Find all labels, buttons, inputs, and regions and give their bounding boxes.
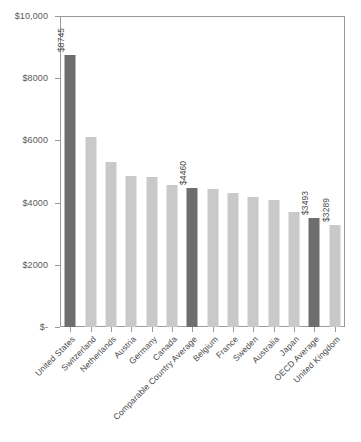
bar-slot — [223, 16, 243, 327]
bar-slot — [80, 16, 100, 327]
x-axis-tick-mark — [111, 327, 112, 332]
bar — [146, 177, 157, 327]
bar — [228, 193, 239, 327]
x-axis-tick-mark — [213, 327, 214, 332]
y-axis-tick-label: $4000 — [22, 198, 48, 208]
y-axis-tick-label: $- — [40, 322, 48, 332]
y-axis-tick-label: $6000 — [22, 135, 48, 145]
bar-value-label: $3289 — [321, 198, 331, 222]
bar — [187, 188, 198, 327]
y-axis-tick-label: $8000 — [22, 73, 48, 83]
bar — [105, 162, 116, 327]
x-axis-tick-mark — [172, 327, 173, 332]
bar-slot — [121, 16, 141, 327]
bar-value-label: $8745 — [56, 28, 66, 52]
bar-slot — [243, 16, 263, 327]
bar-slot: $4460 — [182, 16, 202, 327]
bar-slot: $3289 — [325, 16, 345, 327]
x-axis-tick-mark — [91, 327, 92, 332]
x-axis-tick-mark — [335, 327, 336, 332]
bar — [65, 55, 76, 327]
y-axis-tick-label: $2000 — [22, 260, 48, 270]
bar-slot — [284, 16, 304, 327]
x-axis-tick-mark — [253, 327, 254, 332]
bar — [207, 189, 218, 327]
bar — [85, 137, 96, 327]
bar — [268, 200, 279, 327]
bar-slot — [141, 16, 161, 327]
x-axis-labels: United StatesSwitzerlandNetherlandsAustr… — [60, 334, 345, 442]
bar-slot — [203, 16, 223, 327]
bar — [309, 218, 320, 327]
x-axis-tick-mark — [314, 327, 315, 332]
bar-slot: $8745 — [60, 16, 80, 327]
x-axis-tick-mark — [152, 327, 153, 332]
x-axis-tick-mark — [233, 327, 234, 332]
y-axis-tick-label: $10,000 — [15, 11, 48, 21]
bar-chart: $10,000$8000$6000$4000$2000$- $8745$4460… — [0, 0, 361, 442]
bar-slot: $3493 — [304, 16, 324, 327]
bar-value-label: $4460 — [178, 161, 188, 185]
bar-slot — [264, 16, 284, 327]
bars-layer: $8745$4460$3493$3289 — [60, 16, 345, 327]
x-axis-tick-mark — [131, 327, 132, 332]
bar — [289, 212, 300, 327]
bar — [329, 225, 340, 327]
bar — [166, 185, 177, 327]
bar-value-label: $3493 — [300, 191, 310, 215]
x-axis-tick-mark — [294, 327, 295, 332]
bar-slot — [101, 16, 121, 327]
x-axis-ticks — [60, 327, 345, 333]
x-axis-tick-mark — [70, 327, 71, 332]
x-axis-tick-mark — [192, 327, 193, 332]
bar — [248, 197, 259, 327]
bar — [126, 176, 137, 327]
x-axis-tick-mark — [274, 327, 275, 332]
